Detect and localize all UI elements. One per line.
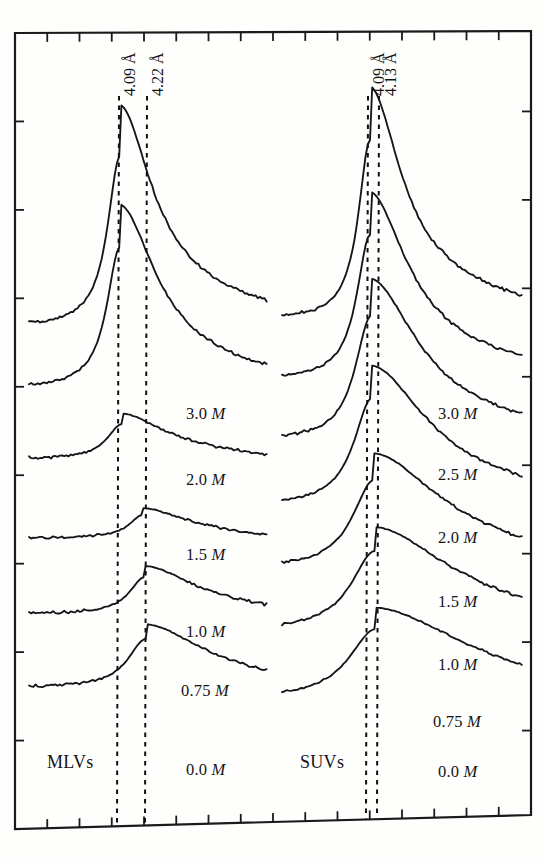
curve-suvs-10m [282,453,522,563]
curve-mlvs-20m [29,205,267,385]
concentration-label: 1.5 M [438,592,478,612]
concentration-label: 3.0 M [438,404,478,424]
concentration-label: 1.0 M [186,622,226,642]
curve-mlvs-10m [29,508,267,539]
curve-mlvs-15m [29,414,267,459]
dashed-marker-line [366,96,368,818]
curve-suvs-30m [282,87,522,315]
curve-suvs-075m [282,527,522,625]
concentration-label: 1.5 M [186,545,226,565]
panel-label-suvs: SUVs [300,752,344,773]
concentration-label: 0.0 M [438,762,478,782]
figure-panel: 4.09 Å 4.22 Å 4.09 Å 4.13 Å MLVs SUVs 3.… [0,0,546,861]
curve-suvs-25m [282,192,522,375]
dashed-marker-line [117,96,119,825]
concentration-label: 2.0 M [186,470,226,490]
curve-mlvs-00m [29,624,267,687]
marker-dashed-lines [117,96,379,825]
curve-suvs-15m [282,366,522,501]
curve-suvs-00m [282,608,522,692]
dspacing-label-mlv-1: 4.09 Å [121,52,139,96]
panel-label-mlvs: MLVs [47,752,94,773]
concentration-label: 1.0 M [438,655,478,675]
concentration-label: 2.0 M [438,528,478,548]
concentration-label: 0.75 M [181,681,229,701]
curve-suvs-20m [282,279,522,436]
concentration-label: 0.75 M [433,712,481,732]
dspacing-label-mlv-2: 4.22 Å [149,52,167,96]
plot-frame [15,31,531,829]
concentration-label: 0.0 M [186,760,226,780]
dashed-marker-line [377,96,379,818]
curve-mlvs-075m [29,566,267,614]
dashed-marker-line [145,96,147,824]
dspacing-label-suv-2: 4.13 Å [382,52,400,96]
concentration-label: 2.5 M [438,465,478,485]
concentration-label: 3.0 M [186,404,226,424]
